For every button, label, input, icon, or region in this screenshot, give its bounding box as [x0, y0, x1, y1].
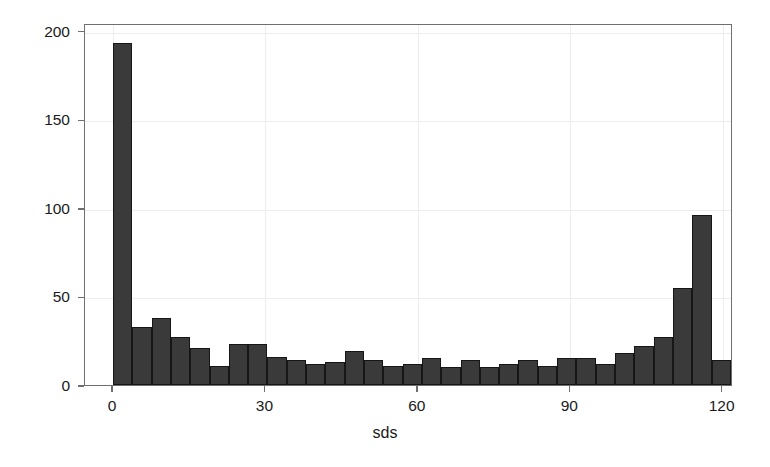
x-axis-tick [264, 386, 266, 392]
histogram-bar [480, 367, 499, 385]
histogram-figure: 050100150200 0306090120 sds [0, 0, 770, 467]
histogram-bar [654, 337, 673, 385]
plot-area [84, 24, 732, 386]
x-axis-tick-label: 0 [108, 398, 117, 414]
bars-container [85, 25, 731, 385]
histogram-bar [692, 215, 711, 385]
histogram-bar [461, 360, 480, 385]
y-axis-tick-label: 100 [0, 201, 70, 217]
histogram-bar [171, 337, 190, 385]
y-axis-tick-label: 150 [0, 112, 70, 128]
x-axis-tick-label: 30 [256, 398, 273, 414]
y-axis-tick [78, 297, 84, 299]
histogram-bar [132, 327, 151, 385]
histogram-bar [383, 366, 402, 385]
x-axis-tick [416, 386, 418, 392]
histogram-bar [190, 348, 209, 385]
histogram-bar [518, 360, 537, 385]
histogram-bar [596, 364, 615, 385]
x-axis-tick [569, 386, 571, 392]
y-axis-tick [78, 120, 84, 122]
x-axis-tick-label: 120 [709, 398, 735, 414]
histogram-bar [499, 364, 518, 385]
y-axis-tick [78, 31, 84, 33]
y-axis-tick [78, 385, 84, 387]
histogram-bar [634, 346, 653, 385]
y-axis-tick-label: 200 [0, 24, 70, 40]
histogram-bar [345, 351, 364, 385]
histogram-bar [210, 366, 229, 385]
histogram-bar [287, 360, 306, 385]
histogram-bar [306, 364, 325, 385]
y-axis-tick-label: 50 [0, 289, 70, 305]
x-axis-tick [721, 386, 723, 392]
y-axis-tick-label: 0 [0, 378, 70, 394]
histogram-bar [557, 358, 576, 385]
histogram-bar [673, 288, 692, 385]
histogram-bar [441, 367, 460, 385]
histogram-bar [576, 358, 595, 385]
histogram-bar [113, 43, 132, 385]
histogram-bar [229, 344, 248, 385]
histogram-bar [248, 344, 267, 385]
histogram-bar [152, 318, 171, 385]
y-axis-tick [78, 208, 84, 210]
histogram-bar [422, 358, 441, 385]
histogram-bar [325, 362, 344, 385]
histogram-bar [364, 360, 383, 385]
histogram-bar [267, 357, 286, 385]
histogram-bar [712, 360, 731, 385]
x-axis-label: sds [0, 424, 770, 442]
x-axis-tick [111, 386, 113, 392]
x-axis-tick-label: 90 [561, 398, 578, 414]
histogram-bar [403, 364, 422, 385]
histogram-bar [615, 353, 634, 385]
histogram-bar [538, 366, 557, 385]
x-axis-tick-label: 60 [408, 398, 425, 414]
